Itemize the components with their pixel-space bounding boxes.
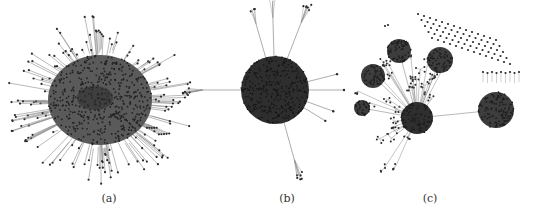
- network-graph-c: [340, 0, 543, 218]
- panel-c: (c): [340, 0, 543, 218]
- network-graph-b: [180, 0, 360, 218]
- network-graph-a: [0, 0, 200, 218]
- panel-b: (b): [180, 0, 360, 218]
- panel-a: (a): [0, 0, 200, 218]
- caption-a: (a): [101, 192, 116, 205]
- caption-b: (b): [279, 192, 295, 205]
- caption-c: (c): [423, 192, 438, 205]
